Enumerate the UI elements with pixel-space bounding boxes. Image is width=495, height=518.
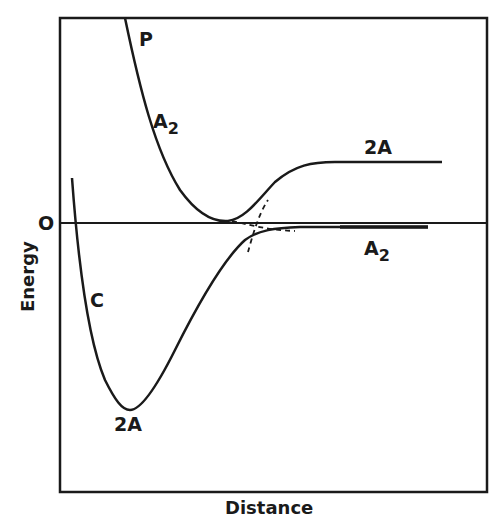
label-2a-bottom: 2A bbox=[114, 413, 142, 435]
y-axis-label: Energy bbox=[17, 241, 38, 312]
label-a2-lower-sub: 2 bbox=[379, 246, 390, 265]
label-2a-right: 2A bbox=[364, 136, 392, 158]
energy-diagram: P A2 2A A2 C 2A O Energy Distance bbox=[0, 0, 495, 518]
label-a2-upper-main: A bbox=[153, 110, 168, 132]
label-a2-upper: A2 bbox=[153, 110, 179, 138]
label-a2-lower: A2 bbox=[364, 237, 390, 265]
x-axis-label: Distance bbox=[225, 497, 313, 518]
label-p: P bbox=[139, 28, 153, 50]
label-a2-upper-sub: 2 bbox=[168, 119, 179, 138]
zero-label: O bbox=[38, 212, 54, 234]
curve-c-lower bbox=[72, 178, 428, 410]
label-c: C bbox=[90, 289, 104, 311]
label-a2-lower-main: A bbox=[364, 237, 379, 259]
